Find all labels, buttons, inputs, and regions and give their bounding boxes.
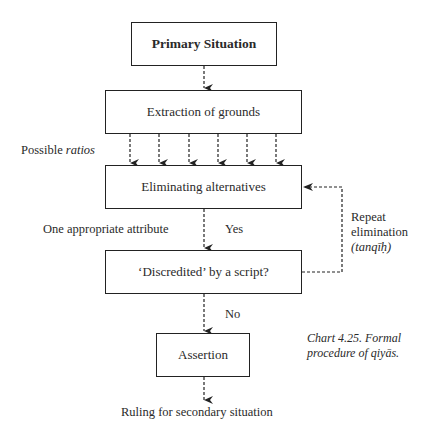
node-assertion-label: Assertion xyxy=(178,347,228,363)
node-assertion: Assertion xyxy=(156,333,250,377)
label-repeat-line2: elimination xyxy=(351,225,408,240)
label-possible-ratios: Possible ratios xyxy=(21,143,95,158)
label-one-appropriate-attribute: One appropriate attribute xyxy=(43,222,169,237)
node-primary-situation-label: Primary Situation xyxy=(152,36,257,52)
label-repeat-line1: Repeat xyxy=(351,210,408,225)
caption-line1-text: Formal xyxy=(365,331,401,345)
node-primary-situation: Primary Situation xyxy=(131,22,277,66)
caption-line2: procedure of qiyās. xyxy=(307,346,401,361)
caption-number: Chart 4.25. xyxy=(307,331,362,345)
label-no: No xyxy=(225,307,240,322)
label-ruling-secondary-situation: Ruling for secondary situation xyxy=(121,405,273,420)
label-possible-text: Possible xyxy=(21,143,63,157)
label-yes: Yes xyxy=(225,222,243,237)
label-tanqih: (tanqīḥ) xyxy=(351,240,408,255)
label-repeat-elimination: Repeat elimination (tanqīḥ) xyxy=(351,210,408,255)
node-extraction-of-grounds: Extraction of grounds xyxy=(105,90,302,134)
node-eliminating-alternatives: Eliminating alternatives xyxy=(105,165,302,209)
chart-caption: Chart 4.25. Formal procedure of qiyās. xyxy=(307,331,401,361)
label-ratios-text: ratios xyxy=(66,143,95,157)
node-extraction-label: Extraction of grounds xyxy=(147,104,260,120)
node-discredited-by-script: ‘Discredited’ by a script? xyxy=(105,250,302,294)
node-eliminating-label: Eliminating alternatives xyxy=(141,179,266,195)
node-discredited-label: ‘Discredited’ by a script? xyxy=(138,264,269,280)
